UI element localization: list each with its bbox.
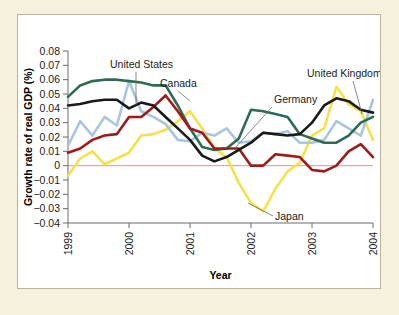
x-tick-label: 2001	[184, 232, 196, 256]
y-tick-label: 0.01	[40, 145, 61, 157]
series-line-united-kingdom	[68, 81, 373, 146]
series-label-germany: Germany	[274, 93, 318, 105]
leader-line-japan	[248, 203, 273, 216]
x-axis-title: Year	[209, 269, 231, 281]
y-tick-label: 0.07	[40, 59, 61, 71]
series-label-united-kingdom: United Kingdom	[307, 67, 380, 79]
x-tick-label: 2002	[245, 232, 257, 256]
series-layer	[68, 80, 373, 212]
y-tick-label: −0.02	[33, 188, 60, 200]
y-tick-label: −0.01	[33, 174, 60, 186]
x-tick-label: 1999	[62, 232, 74, 256]
y-tick-label: 0.02	[40, 131, 61, 143]
y-axis-title: Growth rate of real GDP (%)	[22, 68, 34, 206]
series-label-japan: Japan	[275, 210, 304, 222]
y-tick-label: 0.06	[40, 73, 61, 85]
y-axis-ticks: 0.080.070.060.050.040.030.020.010−0.01−0…	[33, 45, 68, 229]
x-tick-label: 2000	[123, 232, 135, 256]
x-tick-label: 2004	[367, 232, 379, 256]
y-tick-label: 0.03	[40, 116, 61, 128]
x-axis-ticks: 199920002001200220032004	[62, 223, 379, 255]
y-tick-label: 0.04	[40, 102, 61, 114]
y-tick-label: −0.04	[33, 217, 60, 229]
figure-root: 0.080.070.060.050.040.030.020.010−0.01−0…	[0, 0, 399, 315]
series-label-united-states: United States	[110, 58, 173, 70]
leader-line-canada	[178, 91, 190, 101]
chart-panel: 0.080.070.060.050.040.030.020.010−0.01−0…	[17, 14, 381, 289]
x-tick-label: 2003	[306, 232, 318, 256]
y-tick-label: 0	[54, 159, 60, 171]
y-tick-label: 0.08	[40, 45, 61, 57]
y-tick-label: −0.03	[33, 202, 60, 214]
y-tick-label: 0.05	[40, 88, 61, 100]
gdp-growth-line-chart: 0.080.070.060.050.040.030.020.010−0.01−0…	[18, 15, 380, 288]
series-label-canada: Canada	[160, 77, 197, 89]
